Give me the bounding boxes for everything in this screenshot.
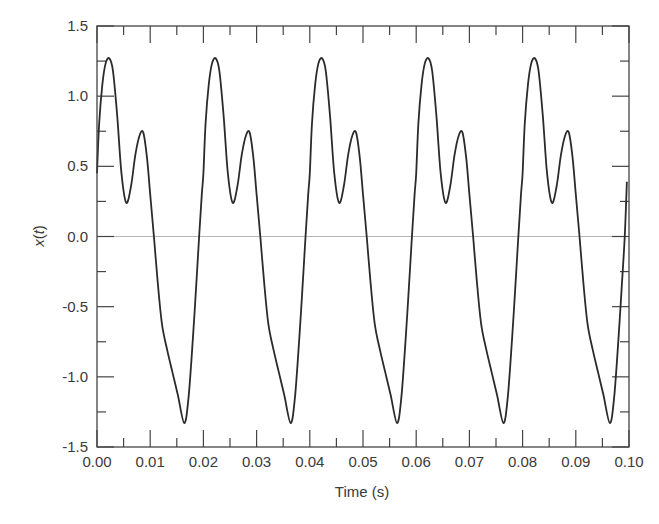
x-tick-label: 0.00 bbox=[82, 453, 111, 470]
x-tick-label: 0.08 bbox=[508, 453, 537, 470]
y-tick-label: -0.5 bbox=[62, 298, 88, 315]
x-tick-label: 0.03 bbox=[242, 453, 271, 470]
plot-area bbox=[97, 26, 629, 447]
y-tick-label: 1.5 bbox=[67, 17, 88, 34]
x-tick-label: 0.06 bbox=[402, 453, 431, 470]
y-axis-tick-labels: -1.5-1.0-0.50.00.51.01.5 bbox=[62, 17, 88, 455]
y-tick-label: 0.0 bbox=[67, 228, 88, 245]
series-line-x-t bbox=[97, 58, 627, 423]
x-tick-label: 0.09 bbox=[561, 453, 590, 470]
chart: 0.000.010.020.030.040.050.060.070.080.09… bbox=[0, 0, 659, 524]
y-tick-label: 0.5 bbox=[67, 157, 88, 174]
x-tick-label: 0.10 bbox=[614, 453, 643, 470]
y-axis-title-close: ) bbox=[30, 225, 47, 230]
x-tick-label: 0.01 bbox=[136, 453, 165, 470]
x-axis-tick-labels: 0.000.010.020.030.040.050.060.070.080.09… bbox=[82, 453, 643, 470]
x-tick-label: 0.05 bbox=[348, 453, 377, 470]
x-tick-label: 0.04 bbox=[295, 453, 324, 470]
y-tick-label: 1.0 bbox=[67, 87, 88, 104]
y-axis-title: x(t) bbox=[30, 225, 47, 248]
x-axis-title: Time (s) bbox=[335, 483, 389, 500]
x-tick-label: 0.07 bbox=[455, 453, 484, 470]
x-tick-label: 0.02 bbox=[189, 453, 218, 470]
y-tick-label: -1.5 bbox=[62, 438, 88, 455]
y-tick-label: -1.0 bbox=[62, 368, 88, 385]
